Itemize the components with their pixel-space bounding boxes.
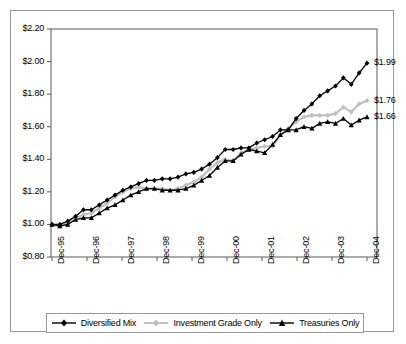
- data-point: [239, 145, 244, 150]
- series-line-0: [52, 63, 367, 224]
- x-axis-label: Dec-95: [56, 236, 66, 264]
- data-point: [325, 88, 330, 93]
- x-axis-label: Dec-02: [301, 236, 311, 264]
- y-axis-label: $2.00: [4, 56, 44, 66]
- chart-legend: Diversified Mix Investment Grade Only Tr…: [46, 313, 364, 333]
- y-axis-label: $1.40: [4, 153, 44, 163]
- data-point: [152, 178, 157, 183]
- legend-marker-diamond-gray-icon: [143, 318, 169, 328]
- data-point: [168, 176, 173, 181]
- data-point: [364, 114, 369, 119]
- data-point: [231, 147, 236, 152]
- data-point: [317, 113, 322, 118]
- y-axis-label: $1.80: [4, 88, 44, 98]
- data-point: [199, 166, 204, 171]
- x-axis-label: Dec-01: [266, 236, 276, 264]
- legend-marker-triangle-black-icon: [269, 318, 295, 328]
- line-chart: $2.20$2.00$1.80$1.60$1.40$1.20$1.00$0.80…: [0, 0, 406, 344]
- x-axis-label: Dec-03: [336, 236, 346, 264]
- legend-item-investment-grade-only[interactable]: Investment Grade Only: [143, 318, 261, 328]
- data-point: [144, 178, 149, 183]
- data-point: [309, 113, 314, 118]
- data-point: [160, 176, 165, 181]
- data-point: [191, 170, 196, 175]
- plot-border: [51, 29, 377, 257]
- y-axis-label: $2.20: [4, 23, 44, 33]
- y-axis-label: $1.60: [4, 121, 44, 131]
- x-axis-label: Dec-98: [161, 236, 171, 264]
- data-point: [183, 171, 188, 176]
- legend-item-treasuries-only[interactable]: Treasuries Only: [269, 318, 359, 328]
- data-point: [325, 113, 330, 118]
- chart-plot: [0, 0, 406, 344]
- x-axis-label: Dec-04: [371, 236, 381, 264]
- legend-item-diversified-mix[interactable]: Diversified Mix: [51, 318, 137, 328]
- series-end-label: $1.99: [374, 57, 396, 67]
- data-point: [341, 116, 346, 121]
- data-point: [136, 181, 141, 186]
- data-point: [262, 137, 267, 142]
- legend-label: Treasuries Only: [299, 318, 359, 328]
- data-point: [176, 175, 181, 180]
- y-axis-label: $1.00: [4, 218, 44, 228]
- x-axis-label: Dec-00: [231, 236, 241, 264]
- legend-marker-diamond-black-icon: [51, 318, 77, 328]
- data-point: [262, 144, 267, 149]
- y-axis-label: $1.20: [4, 186, 44, 196]
- x-axis-label: Dec-99: [196, 236, 206, 264]
- x-axis-label: Dec-96: [91, 236, 101, 264]
- data-point: [254, 140, 259, 145]
- legend-label: Investment Grade Only: [173, 318, 261, 328]
- series-end-label: $1.66: [374, 111, 396, 121]
- series-end-label: $1.76: [374, 95, 396, 105]
- legend-label: Diversified Mix: [81, 318, 137, 328]
- x-axis-label: Dec-97: [126, 236, 136, 264]
- y-axis-label: $0.80: [4, 251, 44, 261]
